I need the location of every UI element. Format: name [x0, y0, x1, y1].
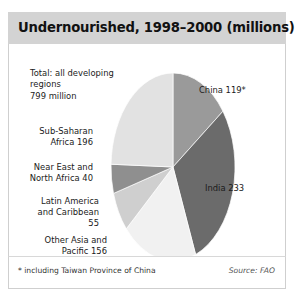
pie-label-china: China 119* [199, 85, 246, 96]
pie-label-india: India 233 [205, 183, 244, 194]
pie-slice-group [111, 73, 235, 261]
pie-label-sub-saharan-africa: Sub-Saharan Africa 196 [39, 126, 93, 148]
pie-slice [111, 73, 173, 167]
pie-label-latin-america-caribbean: Latin America and Caribbean 55 [38, 196, 99, 230]
pie-label-other-asia-pacific: Other Asia and Pacific 156 [45, 235, 107, 257]
footnote-text: * including Taiwan Province of China [18, 266, 156, 275]
total-annotation: Total: all developing regions 799 millio… [30, 68, 114, 102]
page-title: Undernourished, 1998–2000 (millions) [18, 20, 294, 35]
pie-label-near-east-north-africa: Near East and North Africa 40 [30, 162, 93, 184]
pie-chart [109, 71, 237, 263]
chart-plot-area: Total: all developing regions 799 millio… [8, 44, 286, 256]
chart-footer: * including Taiwan Province of China Sou… [8, 256, 286, 289]
chart-figure: Undernourished, 1998–2000 (millions) Tot… [8, 12, 286, 289]
source-text: Source: FAO [229, 266, 275, 275]
chart-title-bar: Undernourished, 1998–2000 (millions) [8, 12, 286, 44]
pie-svg [109, 71, 237, 263]
